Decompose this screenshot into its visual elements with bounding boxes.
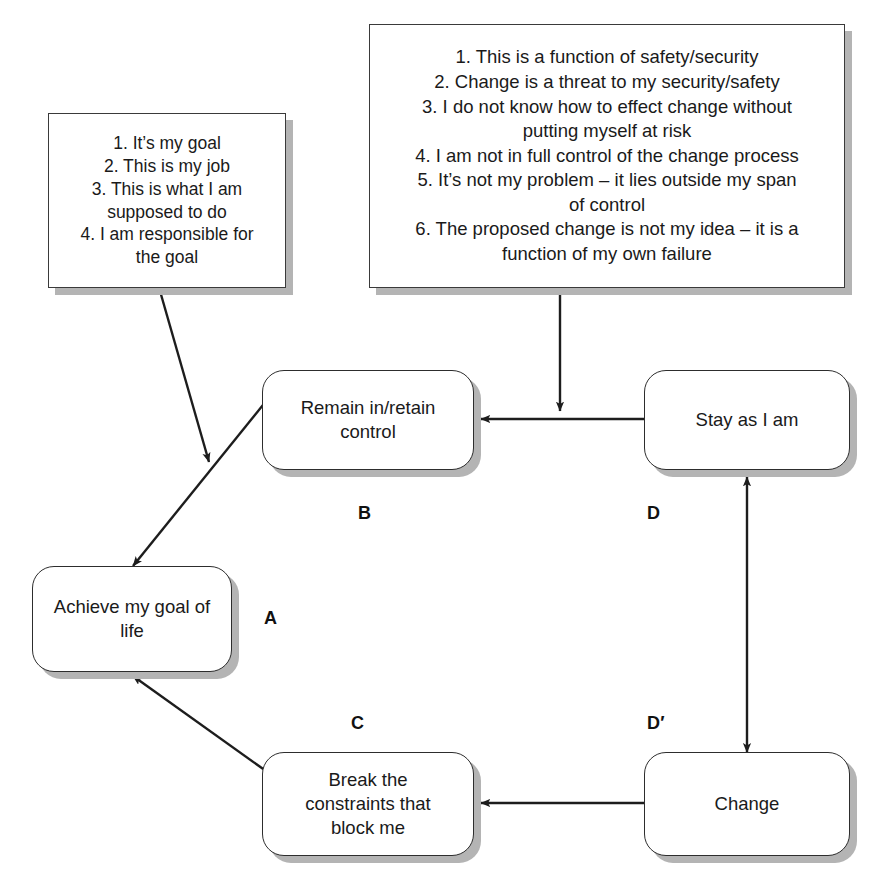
note-beliefs-about-change-text: 1. This is a function of safety/security… (405, 41, 809, 270)
entity-tag-d: D (647, 503, 660, 524)
entity-box-d-prime: Change (644, 752, 850, 856)
entity-box-d-text: Stay as I am (684, 408, 811, 432)
entity-box-a: Achieve my goal of life (32, 566, 232, 672)
entity-tag-d-prime: D′ (647, 713, 665, 734)
entity-box-c: Break the constraints that block me (262, 752, 474, 856)
entity-box-a-text: Achieve my goal of life (42, 595, 222, 643)
edge-beliefs-goal-to-ba (160, 291, 209, 462)
note-beliefs-about-change: 1. This is a function of safety/security… (369, 24, 845, 288)
entity-box-c-text: Break the constraints that block me (293, 768, 442, 840)
entity-tag-c: C (351, 713, 364, 734)
entity-box-d-prime-text: Change (703, 792, 792, 816)
note-beliefs-about-goal-text: 1. It’s my goal 2. This is my job 3. Thi… (70, 128, 263, 273)
edge-c-to-a (133, 676, 266, 771)
entity-tag-b: B (358, 503, 371, 524)
entity-tag-a: A (264, 608, 277, 629)
entity-box-b: Remain in/retain control (262, 370, 474, 470)
edge-b-to-a (133, 400, 267, 566)
note-beliefs-about-goal: 1. It’s my goal 2. This is my job 3. Thi… (48, 113, 286, 288)
entity-box-d: Stay as I am (644, 370, 850, 470)
entity-box-b-text: Remain in/retain control (289, 396, 448, 444)
diagram-canvas: 1. It’s my goal 2. This is my job 3. Thi… (0, 0, 884, 891)
